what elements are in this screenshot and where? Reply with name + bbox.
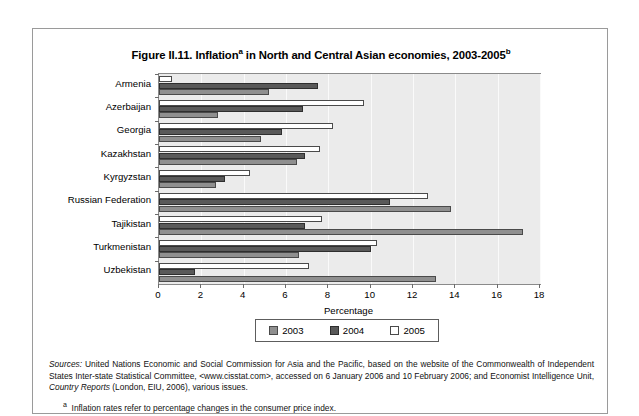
figure-title-main: Figure II.11. Inflation [132,49,239,61]
bar-2004 [159,246,371,252]
x-tick [158,284,159,288]
bar-2005 [159,123,333,129]
bar-2003 [159,159,297,165]
x-tick-label: 16 [485,289,509,300]
y-tick [155,144,159,145]
y-tick [155,237,159,238]
figure-frame: Figure II.11. Inflationa in North and Ce… [32,28,608,414]
legend-swatch-2005 [390,326,399,335]
x-tick-label: 14 [442,289,466,300]
legend-item-2003: 2003 [269,325,303,336]
gridline [455,74,456,284]
x-tick-label: 4 [231,289,255,300]
x-tick [412,284,413,288]
bar-2005 [159,170,250,176]
y-tick [155,97,159,98]
x-tick [285,284,286,288]
gridline [371,74,372,284]
bar-2004 [159,106,303,112]
bar-2005 [159,100,364,106]
bar-2004 [159,153,305,159]
sources-publication-title: Country Reports [49,382,110,392]
x-tick-label: 2 [188,289,212,300]
category-label: Azerbaijan [106,102,151,112]
y-tick [155,261,159,262]
x-tick-label: 8 [315,289,339,300]
x-tick [200,284,201,288]
sources-body: United Nations Economic and Social Commi… [49,359,594,381]
x-tick-label: 10 [358,289,382,300]
figure-title: Figure II.11. Inflationa in North and Ce… [33,47,609,61]
bar-2003 [159,206,451,212]
bar-2003 [159,112,218,118]
page-top-band [0,0,639,26]
category-label: Kazakhstan [101,149,151,159]
x-tick [243,284,244,288]
sources-tail: (London, EIU, 2006), various issues. [110,382,248,392]
plot-wrapper: ArmeniaAzerbaijanGeorgiaKazakhstanKyrgyz… [33,73,609,321]
bar-2004 [159,269,195,275]
x-tick-label: 12 [400,289,424,300]
y-tick [155,214,159,215]
footnote-a: a Inflation rates refer to percentage ch… [63,401,593,413]
plot-area [158,73,541,285]
category-label: Kyrgyzstan [104,172,151,182]
y-tick [155,167,159,168]
category-label: Armenia [115,79,151,89]
legend-label-2004: 2004 [343,325,364,336]
footnote-a-text: Inflation rates refer to percentage chan… [72,403,336,413]
figure-title-mid: in North and Central Asian economies, 20… [243,49,506,61]
bar-2003 [159,252,299,258]
bar-2003 [159,182,216,188]
bar-2005 [159,76,172,82]
legend-swatch-2003 [269,326,278,335]
legend-swatch-2004 [330,326,339,335]
x-tick [539,284,540,288]
x-axis-title: Percentage [158,305,539,316]
x-tick-label: 6 [273,289,297,300]
bar-2004 [159,176,225,182]
bar-2003 [159,89,269,95]
gridline [413,74,414,284]
gridline [540,74,541,284]
legend-label-2005: 2005 [403,325,424,336]
bar-2004 [159,199,390,205]
bar-2005 [159,193,428,199]
legend-item-2004: 2004 [330,325,364,336]
sources-note: Sources: United Nations Economic and Soc… [49,359,594,394]
bar-2003 [159,229,523,235]
bar-2005 [159,240,377,246]
category-label: Georgia [117,125,151,135]
legend-label-2003: 2003 [282,325,303,336]
x-tick [370,284,371,288]
bar-2003 [159,276,436,282]
category-axis-labels: ArmeniaAzerbaijanGeorgiaKazakhstanKyrgyz… [33,73,157,283]
bar-2004 [159,223,305,229]
category-label: Tajikistan [112,219,151,229]
bar-2005 [159,146,320,152]
bar-2005 [159,216,322,222]
category-label: Russian Federation [68,195,151,205]
gridline [498,74,499,284]
x-tick-label: 18 [527,289,551,300]
x-tick-label: 0 [146,289,170,300]
x-tick [327,284,328,288]
x-tick [497,284,498,288]
legend-item-2005: 2005 [390,325,424,336]
chart-legend: 2003 2004 2005 [255,319,439,342]
footnote-a-marker: a [63,401,67,408]
y-tick [155,191,159,192]
category-label: Uzbekistan [104,265,151,275]
y-tick [155,74,159,75]
bar-2005 [159,263,309,269]
figure-title-footnote-b: b [506,47,511,56]
x-tick [454,284,455,288]
bar-2004 [159,129,282,135]
bar-2004 [159,83,318,89]
sources-label: Sources: [49,359,82,369]
category-label: Turkmenistan [93,242,151,252]
bar-2003 [159,136,261,142]
y-tick [155,121,159,122]
